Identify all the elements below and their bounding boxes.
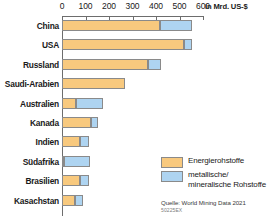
bar-row: Indien <box>0 136 269 155</box>
bar-segment-energy <box>62 117 91 128</box>
chart-legend: Energierohstoffe metallische/ mineralisc… <box>161 156 267 191</box>
x-tick-label: 500 <box>173 1 187 11</box>
stacked-bar <box>62 78 125 89</box>
legend-label-energy: Energierohstoffe <box>188 156 244 166</box>
bar-segment-energy <box>62 78 125 89</box>
legend-item-mineral: metallische/ mineralische Rohstoffe <box>161 170 267 189</box>
bar-row: Australien <box>0 98 269 117</box>
category-label: Kanada <box>0 118 59 129</box>
bar-segment-energy <box>62 20 160 31</box>
bar-segment-energy <box>62 195 75 206</box>
stacked-bar <box>62 175 89 186</box>
legend-label-mineral: metallische/ mineralische Rohstoffe <box>188 170 266 189</box>
category-label: Russland <box>0 60 59 71</box>
bar-segment-mineral <box>75 195 83 206</box>
stacked-bar <box>62 117 98 128</box>
category-label: China <box>0 21 59 32</box>
x-tick-mark <box>180 16 181 20</box>
x-tick-label: 100 <box>79 1 93 11</box>
bar-segment-mineral <box>160 20 193 31</box>
legend-label-mineral-line2: mineralische Rohstoffe <box>188 180 266 190</box>
legend-item-energy: Energierohstoffe <box>161 156 267 168</box>
stacked-bar <box>62 136 89 147</box>
x-tick-mark <box>62 16 63 20</box>
axis-unit-label: in Mrd. US-$ <box>205 2 248 11</box>
bar-segment-mineral <box>80 175 89 186</box>
bar-row: USA <box>0 39 269 58</box>
bar-row: Saudi-Arabien <box>0 78 269 97</box>
bar-segment-energy <box>62 136 80 147</box>
category-label: Südafrika <box>0 157 59 168</box>
x-tick-mark <box>156 16 157 20</box>
category-label: Australien <box>0 99 59 110</box>
x-tick-label: 0 <box>60 1 65 11</box>
stacked-bar <box>62 20 192 31</box>
stacked-bar <box>62 59 161 70</box>
stacked-bar <box>62 195 83 206</box>
stacked-bar <box>62 39 192 50</box>
bar-segment-mineral <box>76 98 103 109</box>
stacked-bar <box>62 98 103 109</box>
bar-segment-mineral <box>184 39 192 50</box>
category-label: Indien <box>0 137 59 148</box>
stacked-bar <box>62 156 90 167</box>
legend-label-mineral-line1: metallische/ <box>188 170 266 180</box>
bar-segment-mineral <box>91 117 98 128</box>
x-tick-mark <box>86 16 87 20</box>
category-label: Brasilien <box>0 176 59 187</box>
chart-container: 0100200300400500600 in Mrd. US-$ ChinaUS… <box>0 0 269 224</box>
bar-segment-energy <box>62 98 76 109</box>
legend-swatch-energy <box>161 157 183 168</box>
bar-segment-mineral <box>64 156 90 167</box>
bar-row: China <box>0 20 269 39</box>
x-tick-mark <box>203 16 204 20</box>
legend-swatch-mineral <box>161 171 183 182</box>
bar-row: Kanada <box>0 117 269 136</box>
bar-segment-energy <box>62 59 148 70</box>
x-tick-label: 300 <box>126 1 140 11</box>
category-label: Saudi-Arabien <box>0 79 59 90</box>
x-tick-label: 200 <box>102 1 116 11</box>
source-note: Quelle: World Mining Data 2021 <box>161 199 246 207</box>
bar-segment-energy <box>62 39 184 50</box>
x-tick-mark <box>133 16 134 20</box>
source-code: 50225EX <box>161 207 182 213</box>
bar-segment-mineral <box>148 59 161 70</box>
category-label: USA <box>0 40 59 51</box>
category-label: Kasachstan <box>0 196 59 207</box>
bar-row: Russland <box>0 59 269 78</box>
bar-segment-energy <box>62 175 80 186</box>
x-tick-mark <box>109 16 110 20</box>
bar-segment-mineral <box>80 136 89 147</box>
x-tick-label: 400 <box>149 1 163 11</box>
